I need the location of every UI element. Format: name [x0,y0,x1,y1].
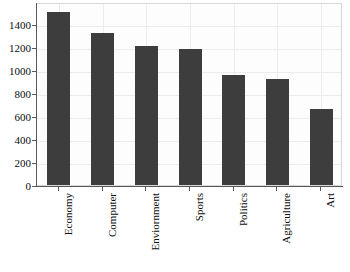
x-tick-mark [320,187,321,191]
bar [91,33,114,185]
y-axis-line [36,3,37,187]
y-tick-mark [32,71,36,72]
x-category-label: Art [325,193,336,208]
bar [47,12,70,185]
bar-chart: 0200400600800100012001400 EconomyCompute… [0,0,350,272]
bar [179,49,202,185]
bar [310,109,333,185]
y-tick-label: 200 [1,158,31,169]
y-tick-mark [32,117,36,118]
y-tick-mark [32,163,36,164]
x-category-label: Politics [238,193,249,226]
bar [222,75,245,185]
x-tick-mark [102,187,103,191]
x-tick-mark [276,187,277,191]
y-tick-label: 1000 [1,66,31,77]
y-tick-label: 400 [1,135,31,146]
x-category-label: Enviornment [150,193,161,250]
plot-area [36,3,342,186]
x-category-label: Economy [63,193,74,235]
y-tick-mark [32,25,36,26]
y-tick-label: 600 [1,112,31,123]
x-tick-mark [145,187,146,191]
y-axis-tick-labels: 0200400600800100012001400 [0,0,31,272]
y-tick-label: 1200 [1,43,31,54]
y-tick-label: 0 [1,181,31,192]
x-category-label: Agriculture [281,193,292,244]
x-tick-mark [233,187,234,191]
bar [135,46,158,185]
y-tick-mark [32,140,36,141]
y-tick-label: 1400 [1,20,31,31]
x-category-label: Computer [107,193,118,237]
y-tick-label: 800 [1,89,31,100]
x-tick-mark [58,187,59,191]
y-tick-mark [32,48,36,49]
y-tick-mark [32,186,36,187]
x-tick-mark [189,187,190,191]
gridline-horizontal [37,26,341,27]
y-tick-mark [32,94,36,95]
x-category-label: Sports [194,193,205,221]
bar [266,79,289,185]
